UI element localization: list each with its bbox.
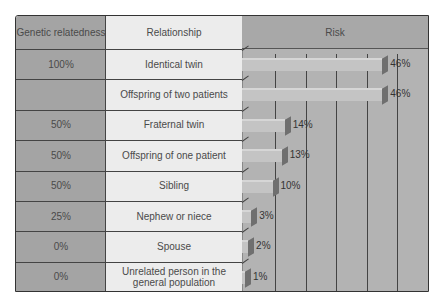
risk-value-label: 1%	[253, 271, 267, 282]
risk-bar-cap	[245, 268, 251, 287]
relationship-cell: Fraternal twin	[108, 110, 240, 140]
risk-bar	[242, 149, 282, 162]
risk-value-label: 3%	[259, 210, 273, 221]
risk-bar	[242, 58, 382, 71]
risk-value-label: 13%	[290, 149, 310, 160]
risk-value-label: 10%	[281, 180, 301, 191]
risk-value-label: 14%	[293, 119, 313, 130]
relationship-cell: Spouse	[108, 231, 240, 261]
risk-bar-cap	[282, 146, 288, 165]
risk-bar-cap	[285, 116, 291, 135]
header-relationship: Relationship	[106, 16, 242, 49]
risk-value-label: 46%	[390, 58, 410, 69]
risk-bar	[242, 88, 382, 101]
genetic-cell: 50%	[16, 140, 106, 170]
genetic-cell: 100%	[16, 49, 106, 79]
header-risk: Risk	[242, 16, 428, 49]
relationship-cell: Offspring of two patients	[108, 79, 240, 109]
genetic-cell: 50%	[16, 110, 106, 140]
relationship-cell: Sibling	[108, 171, 240, 201]
risk-bar	[242, 210, 251, 223]
risk-value-label: 46%	[390, 88, 410, 99]
risk-table: Genetic relatedness Relationship Risk 10…	[15, 15, 429, 292]
relationship-cell: Offspring of one patient	[108, 140, 240, 170]
genetic-cell: 0%	[16, 231, 106, 261]
genetic-cell: 25%	[16, 201, 106, 231]
genetic-cell: 50%	[16, 171, 106, 201]
relationship-cell: Identical twin	[108, 49, 240, 79]
genetic-cell	[16, 79, 106, 109]
relationship-cell: Unrelated person in the general populati…	[108, 262, 240, 292]
risk-bar	[242, 119, 285, 132]
risk-bar	[242, 180, 273, 193]
risk-bar-cap	[273, 177, 279, 196]
genetic-cell: 0%	[16, 262, 106, 292]
risk-value-label: 2%	[256, 240, 270, 251]
header-genetic: Genetic relatedness	[16, 16, 106, 49]
relationship-cell: Nephew or niece	[108, 201, 240, 231]
